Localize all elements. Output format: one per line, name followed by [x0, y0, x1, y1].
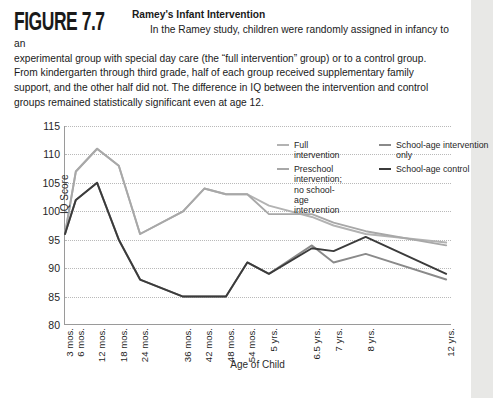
x-tick-label: 18 mos.: [117, 328, 128, 362]
x-tick-label: 6.5 yrs.: [310, 328, 321, 359]
x-tick-label: 24 mos.: [139, 328, 150, 362]
legend-item: Full intervention: [277, 140, 339, 161]
x-tick-label: 6 mos.: [74, 328, 85, 357]
legend-column-1: Full interventionPreschool intervention;…: [277, 140, 339, 219]
x-tick-label: 36 mos.: [182, 328, 193, 362]
y-tick-label: 100: [42, 205, 60, 217]
series-line: [65, 183, 446, 297]
legend-item: School-age control: [379, 164, 493, 174]
caption-line-2: experimental group with special day care…: [14, 53, 426, 64]
y-axis-title: IQ Score: [59, 175, 70, 214]
x-tick-label: 54 mos.: [246, 328, 257, 362]
legend-swatch-icon: [379, 144, 391, 146]
y-tick-label: 110: [43, 148, 60, 160]
legend-label: Full intervention: [294, 140, 339, 160]
y-tick-label: 105: [42, 177, 60, 189]
legend-item: School-age intervention only: [379, 140, 493, 161]
y-tick-label: 95: [48, 234, 60, 246]
y-tick-label: 115: [43, 120, 60, 132]
legend-swatch-icon: [277, 144, 289, 146]
caption-line-3: From kindergarten through third grade, h…: [14, 67, 414, 78]
x-tick-label: 12 mos.: [96, 328, 107, 362]
x-tick-label: 5 yrs.: [267, 328, 278, 351]
figure-title: Ramey's Infant Intervention: [132, 9, 265, 20]
x-tick-label: 8 yrs.: [364, 328, 375, 351]
x-tick-label: 42 mos.: [203, 328, 214, 362]
legend-label: School-age intervention only: [396, 140, 488, 160]
x-tick-label: 7 yrs.: [332, 328, 343, 351]
legend-label: Preschool intervention; no school-age in…: [294, 164, 342, 216]
x-tick-label: 12 yrs.: [445, 328, 456, 357]
plot-area: 80859095100105110115 3 mos.6 mos.12 mos.…: [64, 126, 451, 325]
y-tick-label: 85: [48, 291, 60, 303]
legend-swatch-icon: [379, 168, 391, 170]
caption-line-4: support, and the other half did not. The…: [14, 82, 428, 93]
y-tick-label: 80: [48, 319, 60, 331]
x-tick-label: 3 mos.: [64, 328, 75, 357]
x-axis-title: Age of Child: [64, 359, 451, 370]
series-line: [65, 183, 446, 297]
x-tick-label: 48 mos.: [224, 328, 235, 362]
caption-line-5: groups remained statistically significan…: [14, 97, 264, 108]
line-chart: 80859095100105110115 3 mos.6 mos.12 mos.…: [8, 112, 463, 390]
figure-number: FIGURE 7.7: [14, 11, 105, 31]
legend-swatch-icon: [277, 168, 289, 170]
y-tick-label: 90: [48, 262, 60, 274]
legend-item: Preschool intervention; no school-age in…: [277, 164, 339, 216]
legend-label: School-age control: [396, 164, 469, 174]
figure-caption: FIGURE 7.7 Ramey's Infant Intervention I…: [14, 8, 458, 110]
legend-column-2: School-age intervention onlySchool-age c…: [379, 140, 493, 177]
